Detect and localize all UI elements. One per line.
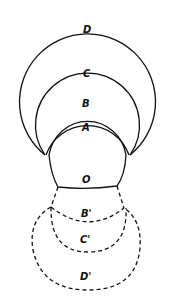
label-d: D bbox=[83, 24, 91, 35]
label-c-prime: C' bbox=[80, 234, 90, 245]
label-o: O bbox=[82, 174, 91, 185]
label-b-prime: B' bbox=[81, 208, 92, 219]
arc-d bbox=[20, 34, 156, 155]
label-d-prime: D' bbox=[80, 271, 91, 282]
nested-arcs-diagram: D C B A O B' C' D' bbox=[0, 0, 174, 304]
dashed-side-left bbox=[51, 187, 58, 207]
label-a: A bbox=[81, 122, 90, 133]
label-c: C bbox=[83, 68, 91, 79]
dashed-side-right bbox=[117, 186, 124, 208]
arc-c bbox=[36, 73, 140, 155]
label-b: B bbox=[82, 98, 90, 109]
